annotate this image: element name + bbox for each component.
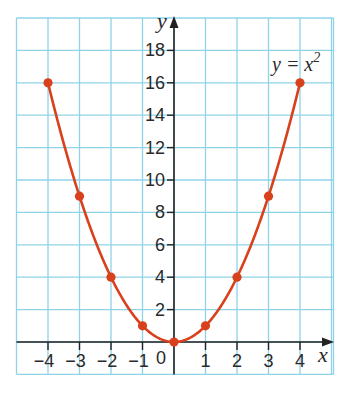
x-tick-label: 3 (263, 351, 273, 371)
x-tick-label: −2 (97, 351, 118, 371)
equation-label: y = x2 (270, 50, 320, 76)
y-tick-label: 16 (145, 73, 165, 93)
data-point (106, 273, 115, 282)
equation-base: y = x (270, 53, 313, 76)
x-tick-label: 0 (156, 348, 166, 368)
data-point (43, 78, 52, 87)
y-tick-label: 10 (145, 170, 165, 190)
y-tick-label: 6 (155, 235, 165, 255)
data-point (201, 321, 210, 330)
parabola-chart: −4−3−2−10123424681012141618 y x y = x2 (0, 0, 349, 394)
x-tick-label: 1 (200, 351, 210, 371)
equation-exponent: 2 (313, 50, 320, 65)
data-point (264, 192, 273, 201)
y-tick-label: 8 (155, 202, 165, 222)
y-tick-label: 14 (145, 105, 165, 125)
x-tick-label: 2 (232, 351, 242, 371)
x-axis-label: x (317, 342, 328, 367)
y-tick-label: 4 (155, 267, 165, 287)
x-tick-label: 4 (295, 351, 305, 371)
y-axis-label: y (155, 8, 167, 33)
y-tick-label: 18 (145, 40, 165, 60)
data-point (138, 321, 147, 330)
x-tick-label: −3 (65, 351, 86, 371)
data-point (75, 192, 84, 201)
data-point (232, 273, 241, 282)
x-tick-label: −4 (34, 351, 55, 371)
y-tick-label: 12 (145, 138, 165, 158)
x-tick-label: −1 (128, 351, 149, 371)
data-point (169, 337, 178, 346)
data-point (295, 78, 304, 87)
y-tick-label: 2 (155, 300, 165, 320)
